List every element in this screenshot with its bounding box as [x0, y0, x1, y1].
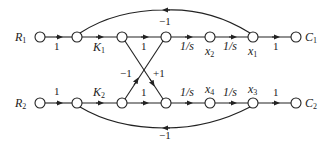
- node-b2: [117, 98, 127, 108]
- node-t3: [161, 32, 171, 42]
- gain-b3-x4: 1/s: [180, 85, 194, 99]
- gain-feedback-bottom: −1: [159, 129, 171, 141]
- node-b1: [72, 98, 82, 108]
- gain-cross-minus: −1: [120, 67, 132, 79]
- node-t2: [117, 32, 127, 42]
- gain-k2: K2: [92, 85, 105, 100]
- node-b3: [161, 98, 171, 108]
- gain-b2-b3: 1: [141, 86, 147, 98]
- label-x1: x1: [247, 44, 257, 59]
- gain-x4-x3: 1/s: [223, 85, 237, 99]
- gain-k1: K1: [92, 40, 105, 55]
- gain-r2-b1: 1: [54, 85, 60, 97]
- node-t1: [72, 32, 82, 42]
- feedback-arc-bottom: [80, 107, 250, 128]
- node-r2: [35, 98, 45, 108]
- node-c2: [291, 98, 301, 108]
- label-c1: C1: [305, 30, 317, 45]
- gain-x1-c1: 1: [273, 40, 279, 52]
- node-x2: [205, 32, 215, 42]
- gain-feedback-top: −1: [159, 15, 171, 27]
- label-c2: C2: [305, 96, 317, 111]
- label-x3: x3: [247, 82, 257, 97]
- label-r2: R2: [14, 96, 26, 111]
- signal-flow-graph: R1 R2 C1 C2 x2 x1 x4 x3 1 K1 1 1/s 1/s 1…: [0, 0, 329, 141]
- gain-x2-x1: 1/s: [223, 39, 237, 53]
- node-x3: [248, 98, 258, 108]
- node-r1: [35, 32, 45, 42]
- node-x1: [248, 32, 258, 42]
- label-x4: x4: [204, 82, 214, 97]
- gain-t3-x2: 1/s: [180, 39, 194, 53]
- label-r1: R1: [14, 30, 26, 45]
- label-x2: x2: [204, 44, 214, 59]
- gain-r1-t1: 1: [54, 40, 60, 52]
- gain-t2-t3: 1: [141, 40, 147, 52]
- node-c1: [291, 32, 301, 42]
- gain-cross-plus: +1: [153, 67, 165, 79]
- gain-x3-c2: 1: [273, 86, 279, 98]
- node-x4: [205, 98, 215, 108]
